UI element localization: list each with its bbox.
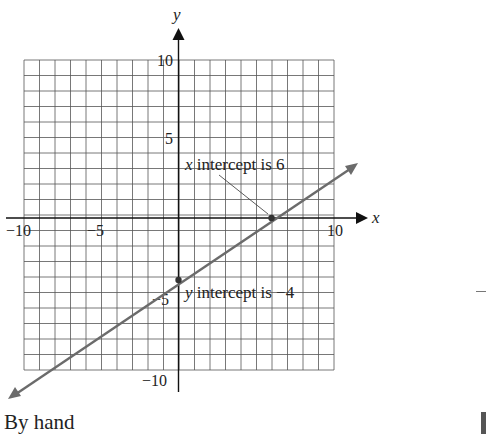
line-arrow-top-icon [345, 163, 358, 175]
partial-dash [476, 291, 486, 292]
x-intercept-label: x intercept is 6 [184, 155, 285, 174]
tick-x-10: 10 [327, 222, 343, 239]
x-intercept-point [268, 215, 274, 221]
caption: By hand [4, 410, 75, 435]
partial-block [481, 412, 486, 434]
y-axis-label: y [171, 5, 181, 24]
tick-x-neg10: −10 [6, 222, 31, 239]
tick-y-neg10: −10 [142, 372, 167, 389]
x-intercept-leader [219, 175, 268, 214]
graph: y x 10 5 −5 −10 −10 −5 10 x intercept is… [0, 0, 486, 440]
x-axis-arrow-icon [356, 212, 368, 224]
data-line [16, 169, 350, 394]
y-intercept-label: y intercept is −4 [183, 283, 295, 302]
tick-y-5: 5 [165, 130, 173, 147]
tick-y-10: 10 [157, 52, 173, 69]
y-intercept-point [175, 277, 181, 283]
x-axis-label: x [371, 208, 380, 227]
y-axis-arrow-icon [173, 28, 185, 40]
tick-x-neg5: −5 [87, 222, 104, 239]
